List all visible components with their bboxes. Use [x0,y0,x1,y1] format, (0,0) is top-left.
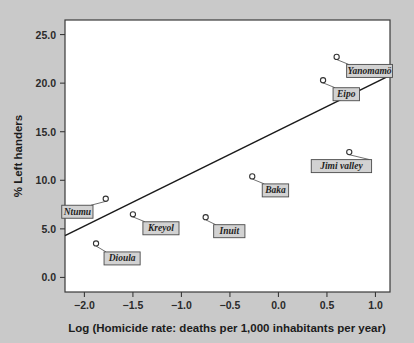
y-tick-label: 10.0 [36,174,57,186]
x-tick-label: −1.5 [123,299,144,311]
y-tick-label: 25.0 [36,29,57,41]
x-axis-tick-labels: −2.0−1.5−1.0−0.50.00.51.0 [74,299,383,311]
y-tick-label: 15.0 [36,126,57,138]
point-label: Inuit [219,226,240,236]
y-axis-ticks [60,35,65,278]
x-axis-title: Log (Homicide rate: deaths per 1,000 inh… [68,322,386,334]
point-label: Dioula [108,253,136,263]
y-tick-label: 20.0 [36,77,57,89]
x-tick-label: 1.0 [368,299,383,311]
x-tick-label: −2.0 [74,299,95,311]
y-axis-title: % Left handers [12,115,24,197]
x-tick-label: 0.5 [320,299,335,311]
x-axis-ticks [84,292,375,297]
y-tick-label: 5.0 [41,223,56,235]
point-label: Jimi valley [319,161,363,171]
point-label: Baka [264,185,286,195]
figure-container: 0.05.010.015.020.025.0 −2.0−1.5−1.0−0.50… [0,0,414,343]
point-label: Ntumu [63,207,91,217]
x-tick-label: −1.0 [171,299,192,311]
point-label: Yanomamö [348,66,392,76]
y-tick-label: 0.0 [41,271,56,283]
y-axis-tick-labels: 0.05.010.015.020.025.0 [36,29,57,284]
x-tick-label: 0.0 [271,299,286,311]
scatter-plot: 0.05.010.015.020.025.0 −2.0−1.5−1.0−0.50… [0,0,414,343]
x-tick-label: −0.5 [220,299,241,311]
point-label: Eipo [336,89,356,99]
point-label: Kreyol [147,223,174,233]
